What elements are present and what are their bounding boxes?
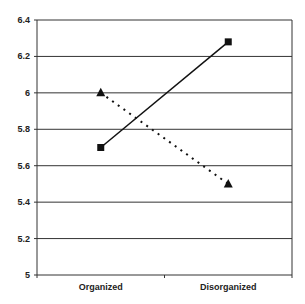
y-tick-label: 6 — [25, 88, 30, 98]
gridlines — [37, 20, 292, 239]
triangle-marker — [224, 179, 233, 188]
x-axis-labels: OrganizedDisorganized — [79, 282, 257, 292]
y-tick-label: 5.2 — [17, 234, 30, 244]
triangle-marker — [96, 88, 105, 97]
line-chart: 55.25.45.65.866.26.4 OrganizedDisorganiz… — [0, 0, 305, 304]
x-tick-label: Disorganized — [200, 282, 257, 292]
y-tick-label: 6.2 — [17, 51, 30, 61]
y-tick-label: 5.8 — [17, 124, 30, 134]
square-marker — [225, 38, 232, 45]
y-tick-label: 5.4 — [17, 197, 30, 207]
y-tick-label: 5.6 — [17, 161, 30, 171]
y-axis-ticks: 55.25.45.65.866.26.4 — [17, 15, 37, 280]
x-tick-label: Organized — [79, 282, 123, 292]
series-line — [101, 93, 229, 184]
y-tick-label: 5 — [25, 270, 30, 280]
square-marker — [97, 144, 104, 151]
y-tick-label: 6.4 — [17, 15, 30, 25]
series-line — [101, 42, 229, 148]
data-series — [96, 38, 233, 187]
axes — [37, 20, 292, 278]
